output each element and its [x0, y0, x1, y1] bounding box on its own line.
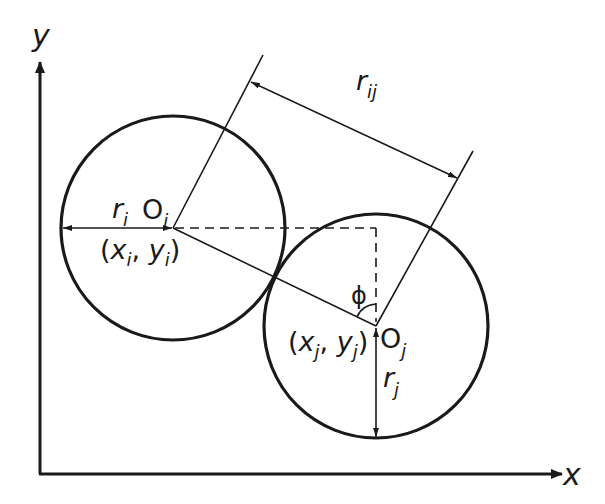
- coord-j-label: (xj, yj): [288, 326, 368, 362]
- y-axis-label: y: [31, 18, 51, 53]
- distance-dimension-line: [251, 82, 457, 178]
- center-i-label: Oi: [142, 194, 168, 231]
- center-j-label: Oj: [380, 323, 406, 361]
- circle-i-labels: ri Oi (xi, yi): [100, 193, 180, 270]
- angle-phi-label: ϕ: [351, 282, 367, 310]
- extension-line-i: [173, 55, 263, 228]
- distance-label: rij: [356, 65, 377, 102]
- radius-j-label: rj: [383, 362, 399, 400]
- center-line: [173, 228, 376, 326]
- distance-subscript: ij: [367, 81, 377, 102]
- radius-i-subscript: i: [123, 209, 128, 230]
- diagram-canvas: y x ri Oi (xi, yi) Oj (xj, yj): [0, 0, 605, 504]
- extension-line-j: [376, 151, 473, 326]
- center-i-symbol: O: [142, 194, 163, 225]
- center-i-subscript: i: [163, 210, 168, 231]
- circle-j-labels: Oj (xj, yj) rj: [288, 323, 406, 400]
- x-axis-label: x: [562, 457, 581, 492]
- center-j-symbol: O: [380, 323, 401, 354]
- radius-i-label: ri: [112, 193, 128, 230]
- coord-i-label: (xi, yi): [100, 234, 180, 270]
